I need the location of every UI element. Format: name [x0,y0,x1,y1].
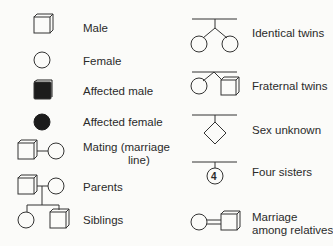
parents-icon [18,175,64,194]
filled-square-icon [34,80,52,99]
circle-icon [34,52,50,68]
mating-line-icon [18,140,64,159]
square-icon [34,14,53,33]
label-female: Female [83,55,121,68]
label-mating-line1: Mating (marriage [83,141,170,154]
identical-twins-icon [191,19,238,52]
label-four-sisters: Four sisters [252,166,312,179]
label-marriage-relatives-line2: among relatives [252,224,333,237]
label-affected-female: Affected female [83,116,163,129]
fraternal-twins-icon [191,72,239,95]
filled-circle-icon [34,114,50,130]
label-parents: Parents [83,181,123,194]
label-identical-twins: Identical twins [252,27,324,40]
label-siblings: Siblings [83,214,123,227]
label-marriage-relatives-line1: Marriage [252,211,297,224]
label-sex-unknown: Sex unknown [252,124,321,137]
diamond-icon [192,115,237,144]
label-male: Male [83,22,108,35]
sister-count-number: 4 [211,170,217,183]
label-mating-line2: line) [128,154,150,167]
consanguineous-marriage-icon [191,211,240,230]
label-fraternal-twins: Fraternal twins [252,80,327,93]
label-affected-male: Affected male [83,85,153,98]
